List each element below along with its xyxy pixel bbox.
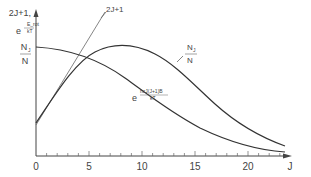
exp-label-base: e	[132, 93, 137, 103]
curve-boltzmann-factor	[36, 47, 285, 152]
dist-label-num-sub: J	[193, 47, 196, 53]
line-2j-plus-1-label: 2J+1	[106, 5, 124, 14]
x-tick-label-5: 5	[86, 161, 92, 172]
population-chart: 0 5 10 15 20 J 2J+1, e E_rot kT N J N 2J…	[0, 0, 311, 177]
x-tick-label-10: 10	[136, 161, 148, 172]
y-axis-label-line: 2J+1,	[9, 8, 31, 18]
y-axis-label-frac-num: N	[21, 42, 28, 52]
x-tick-label-0: 0	[33, 161, 39, 172]
x-axis-label: J	[288, 161, 293, 172]
x-axis-arrow-icon	[283, 154, 292, 159]
dist-label-leader	[177, 56, 183, 62]
y-axis-label-frac-num-sub: J	[28, 47, 31, 53]
y-axis-label-exp-num: E_rot	[27, 21, 40, 27]
x-tick-label-15: 15	[189, 161, 201, 172]
y-axis-label-exp-base: e	[16, 26, 21, 36]
x-axis-ticks	[47, 151, 280, 156]
exp-label-num: hcJ(J+1)B	[140, 88, 163, 94]
exp-label-den: kT	[150, 95, 156, 101]
y-axis-label-exp-den: kT	[27, 28, 33, 34]
y-axis-arrow-icon	[34, 9, 39, 17]
x-tick-label-20: 20	[242, 161, 254, 172]
curve-population-distribution	[36, 45, 285, 146]
dist-label-den: N	[187, 56, 193, 65]
y-axis-label-frac-den: N	[22, 56, 29, 66]
